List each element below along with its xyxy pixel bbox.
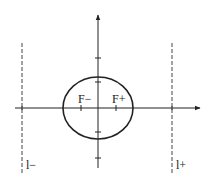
directrix-minus-label: l− <box>26 158 36 172</box>
focus-minus-label: F− <box>78 92 92 106</box>
directrix-plus-label: l+ <box>176 158 186 172</box>
ellipse-diagram: F− F+ l− l+ <box>0 0 208 184</box>
focus-plus-label: F+ <box>112 92 126 106</box>
